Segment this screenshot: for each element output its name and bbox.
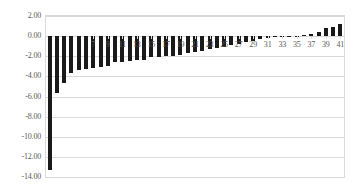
bar-slot: [140, 16, 147, 177]
bar[interactable]: [62, 36, 66, 83]
bar-slot: [337, 16, 344, 177]
bar[interactable]: [99, 36, 103, 67]
bar-slot: [220, 16, 227, 177]
bar[interactable]: [48, 36, 52, 170]
bar[interactable]: [215, 36, 219, 48]
bar-slot: [257, 16, 264, 177]
bar-slot: [315, 16, 322, 177]
bar[interactable]: [302, 35, 306, 36]
bar[interactable]: [193, 36, 197, 52]
plot-area: 7911131517192123252729313335373941: [45, 15, 345, 178]
y-axis-tick-label: -8.00: [0, 113, 41, 121]
bar-slot: [104, 16, 111, 177]
bar-slot: [111, 16, 118, 177]
bar-slot: [191, 16, 198, 177]
y-axis-tick-label: -14.00: [0, 173, 41, 181]
bar[interactable]: [55, 36, 59, 93]
bar[interactable]: [338, 24, 342, 36]
bar-slot: [155, 16, 162, 177]
bar[interactable]: [157, 36, 161, 57]
bar-slot: [75, 16, 82, 177]
y-axis-tick-label: -4.00: [0, 72, 41, 80]
bar-slot: [46, 16, 53, 177]
bar[interactable]: [69, 36, 73, 73]
bar[interactable]: [258, 36, 262, 39]
bar-slot: [329, 16, 336, 177]
bar[interactable]: [208, 36, 212, 49]
bar[interactable]: [91, 36, 95, 68]
bar[interactable]: [84, 36, 88, 69]
bar-slot: [162, 16, 169, 177]
bar-slot: [228, 16, 235, 177]
bar-slot: [133, 16, 140, 177]
bar-slot: [68, 16, 75, 177]
bar[interactable]: [113, 36, 117, 62]
y-axis: 2.000.00-2.00-4.00-6.00-8.00-10.00-12.00…: [0, 15, 41, 178]
bar-slot: [53, 16, 60, 177]
y-axis-tick-label: -12.00: [0, 153, 41, 161]
bar[interactable]: [135, 36, 139, 60]
y-axis-tick-label: -10.00: [0, 133, 41, 141]
gridline: [46, 177, 344, 178]
bar-slot: [322, 16, 329, 177]
bar-slot: [279, 16, 286, 177]
bar-slot: [177, 16, 184, 177]
bar-slot: [213, 16, 220, 177]
y-axis-tick-label: -2.00: [0, 52, 41, 60]
bar-slot: [242, 16, 249, 177]
bar[interactable]: [171, 36, 175, 56]
bar-slot: [199, 16, 206, 177]
bar-slot: [293, 16, 300, 177]
bar[interactable]: [295, 36, 299, 37]
bar[interactable]: [287, 36, 291, 37]
bar[interactable]: [128, 36, 132, 61]
y-axis-tick-label: 2.00: [0, 12, 41, 20]
bar[interactable]: [149, 36, 153, 57]
bar[interactable]: [324, 28, 328, 37]
bar-slot: [235, 16, 242, 177]
bar-slot: [126, 16, 133, 177]
bar[interactable]: [178, 36, 182, 55]
bar-slot: [97, 16, 104, 177]
bar-slot: [184, 16, 191, 177]
bar[interactable]: [200, 36, 204, 51]
y-axis-tick-label: 0.00: [0, 32, 41, 40]
bar-slot: [308, 16, 315, 177]
bar-slot: [271, 16, 278, 177]
y-axis-tick-label: -6.00: [0, 93, 41, 101]
bar[interactable]: [164, 36, 168, 56]
bar-slot: [286, 16, 293, 177]
bar-slot: [264, 16, 271, 177]
bar[interactable]: [251, 36, 255, 41]
bar[interactable]: [280, 36, 284, 37]
bar[interactable]: [229, 36, 233, 45]
bar[interactable]: [222, 36, 226, 47]
bars-layer: [46, 16, 344, 177]
bar[interactable]: [186, 36, 190, 53]
bar-slot: [148, 16, 155, 177]
bar-slot: [119, 16, 126, 177]
bar[interactable]: [331, 27, 335, 37]
bar[interactable]: [273, 36, 277, 37]
bar-slot: [170, 16, 177, 177]
bar[interactable]: [77, 36, 81, 70]
bar[interactable]: [120, 36, 124, 62]
bar[interactable]: [106, 36, 110, 66]
bar-chart: 2.000.00-2.00-4.00-6.00-8.00-10.00-12.00…: [0, 0, 364, 191]
bar[interactable]: [244, 36, 248, 42]
bar-slot: [82, 16, 89, 177]
bar-slot: [206, 16, 213, 177]
bar[interactable]: [237, 36, 241, 44]
bar-slot: [61, 16, 68, 177]
bar[interactable]: [266, 36, 270, 38]
bar[interactable]: [309, 34, 313, 36]
bar[interactable]: [142, 36, 146, 60]
bar[interactable]: [317, 32, 321, 36]
bar-slot: [90, 16, 97, 177]
bar-slot: [300, 16, 307, 177]
bar-slot: [250, 16, 257, 177]
